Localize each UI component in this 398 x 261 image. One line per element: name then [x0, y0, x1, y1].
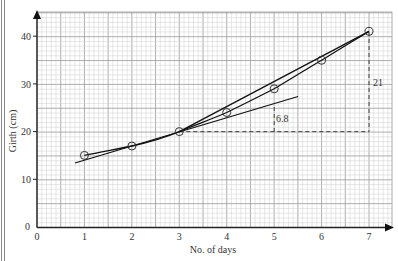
y-tick-0: 0: [25, 221, 30, 232]
y-tick-20: 20: [21, 126, 31, 137]
y-tick-10: 10: [21, 174, 31, 185]
x-ticks: 0 1 2 3 4 5 6 7: [35, 231, 372, 242]
x-tick-5: 5: [272, 231, 277, 242]
y-axis-label: Girth (cm): [7, 110, 19, 153]
x-tick-2: 2: [129, 231, 134, 242]
axes: [33, 10, 394, 232]
x-tick-7: 7: [367, 231, 372, 242]
x-tick-0: 0: [35, 231, 40, 242]
chart-frame: 0 10 20 30 40 0 1 2 3 4 5 6 7 No. of day…: [0, 0, 398, 261]
y-axis-arrow-icon: [33, 10, 41, 19]
x-axis-label: No. of days: [190, 244, 236, 255]
y-tick-40: 40: [21, 31, 31, 42]
chart-svg: 0 10 20 30 40 0 1 2 3 4 5 6 7 No. of day…: [0, 0, 398, 261]
annotation-lines: 21 6.8: [179, 32, 383, 132]
y-tick-30: 30: [21, 79, 31, 90]
y-ticks: 0 10 20 30 40: [21, 31, 37, 232]
x-tick-1: 1: [82, 231, 87, 242]
annotation-6-8: 6.8: [276, 113, 289, 124]
x-axis-arrow-icon: [385, 224, 394, 232]
x-tick-6: 6: [319, 231, 324, 242]
x-tick-4: 4: [224, 231, 229, 242]
annotation-21: 21: [373, 77, 383, 88]
x-tick-3: 3: [177, 231, 182, 242]
grid: [37, 12, 392, 228]
